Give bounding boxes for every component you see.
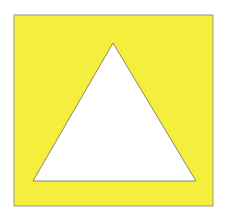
diagram-svg [0,0,228,222]
figure-canvas [0,0,228,222]
